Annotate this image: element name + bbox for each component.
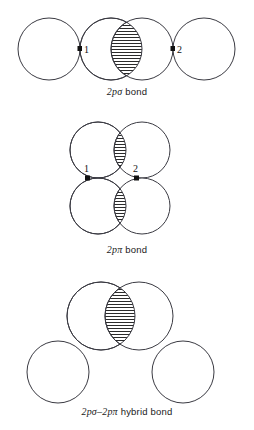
orbital-lobe-bottom-left	[27, 341, 89, 403]
node-dot-2	[171, 46, 176, 51]
figure-2p-sigma-bond: 1 2 2pσ bond	[0, 0, 254, 110]
node-dot-1	[78, 46, 83, 51]
caption-symbol: 2pσ	[107, 86, 123, 97]
figure-2p-pi-bond: 1 2 2pπ bond	[0, 110, 254, 270]
node-label-2: 2	[133, 163, 138, 174]
caption-symbol: 2pπ	[107, 244, 123, 255]
figure-2p-sigma-2p-pi-hybrid-bond: 2pσ–2pπ hybrid bond	[0, 270, 254, 430]
orbital-lobe-1	[18, 18, 80, 80]
orbital-lobe-4	[173, 18, 235, 80]
diagram-2p-pi-bond: 1 2	[0, 110, 254, 244]
caption-text: bond	[122, 244, 147, 255]
caption-2p-pi-bond: 2pπ bond	[0, 244, 254, 255]
orbital-lobe-bottom-right	[152, 341, 214, 403]
node-dot-2	[134, 176, 139, 181]
node-label-1: 1	[84, 163, 89, 174]
caption-symbol-b: 2pπ	[102, 406, 118, 417]
caption-symbol-a: 2pσ	[81, 406, 97, 417]
diagram-2p-sigma-bond: 1 2	[0, 0, 254, 86]
caption-text: hybrid bond	[118, 406, 173, 417]
node-label-1: 1	[84, 44, 89, 55]
node-label-2: 2	[177, 44, 182, 55]
caption-text: bond	[122, 86, 147, 97]
caption-2p-sigma-bond: 2pσ bond	[0, 86, 254, 97]
node-dot-1	[85, 176, 90, 181]
diagram-2p-sigma-2p-pi-hybrid-bond	[0, 270, 254, 406]
caption-2p-sigma-2p-pi-hybrid-bond: 2pσ–2pπ hybrid bond	[0, 406, 254, 417]
